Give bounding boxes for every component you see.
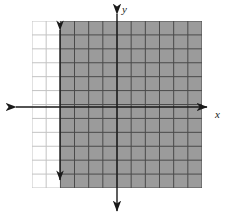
- x-axis-label: x: [215, 109, 220, 120]
- gridlines-unshaded: [32, 21, 60, 188]
- coordinate-plane: [0, 0, 233, 222]
- graph-figure: y x: [0, 0, 233, 222]
- y-axis-label: y: [122, 4, 127, 15]
